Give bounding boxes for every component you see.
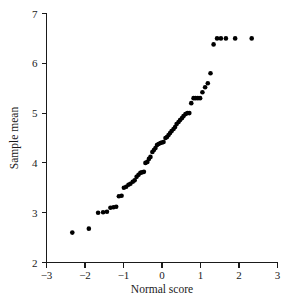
x-tick-label: 2 bbox=[236, 269, 242, 281]
data-point bbox=[203, 85, 208, 90]
data-point bbox=[119, 193, 124, 198]
scatter-plot-canvas: −3−2−10123234567 Normal scoreSample mean bbox=[0, 0, 298, 303]
x-tick-label: −1 bbox=[118, 269, 130, 281]
data-point bbox=[87, 226, 92, 231]
data-point bbox=[161, 140, 166, 145]
y-tick-label: 2 bbox=[32, 257, 38, 269]
data-point bbox=[219, 36, 224, 41]
data-points-group bbox=[70, 36, 254, 235]
x-tick-label: −3 bbox=[41, 269, 53, 281]
x-tick-label: 0 bbox=[159, 269, 165, 281]
data-point bbox=[148, 155, 153, 160]
data-point bbox=[105, 209, 110, 214]
data-point bbox=[198, 96, 203, 101]
y-tick-label: 4 bbox=[32, 157, 38, 169]
axes-group bbox=[47, 14, 278, 263]
x-axis-title: Normal score bbox=[131, 283, 193, 295]
data-point bbox=[211, 42, 216, 47]
data-point bbox=[189, 101, 194, 106]
x-tick-label: 1 bbox=[198, 269, 204, 281]
y-tick-label: 5 bbox=[32, 107, 38, 119]
data-point bbox=[224, 36, 229, 41]
data-point bbox=[200, 90, 205, 95]
x-tick-label: −2 bbox=[79, 269, 91, 281]
data-point bbox=[70, 230, 75, 235]
data-point bbox=[96, 210, 101, 215]
data-point bbox=[114, 204, 119, 209]
y-tick-label: 7 bbox=[32, 8, 38, 20]
data-point bbox=[208, 71, 213, 76]
y-axis-title: Sample mean bbox=[8, 107, 21, 170]
y-tick-label: 6 bbox=[32, 57, 38, 69]
normal-probability-plot-figure: −3−2−10123234567 Normal scoreSample mean bbox=[0, 0, 298, 303]
data-point bbox=[142, 170, 147, 175]
ticks-group bbox=[42, 14, 278, 268]
data-point bbox=[206, 81, 211, 86]
data-point bbox=[187, 111, 192, 116]
y-tick-label: 3 bbox=[32, 207, 38, 219]
x-tick-label: 3 bbox=[275, 269, 281, 281]
data-point bbox=[249, 36, 254, 41]
data-point bbox=[233, 36, 238, 41]
